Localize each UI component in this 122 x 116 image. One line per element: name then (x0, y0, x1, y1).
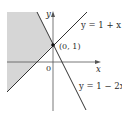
origin-label: 0 (46, 65, 51, 73)
diagram-canvas (0, 0, 122, 116)
y-axis-label: y (46, 10, 51, 19)
shaded-region (7, 12, 53, 92)
line1-equation-label: y = 1 + x (81, 21, 121, 30)
line-y-equals-1-minus-2x (37, 12, 86, 110)
line2-equation-label: y = 1 − 2x (79, 82, 122, 91)
y-axis-arrow-icon (51, 11, 55, 17)
intersection-point (51, 43, 55, 47)
point-label: (0, 1) (59, 43, 81, 51)
inequality-region-diagram: y x 0 (0, 1) y = 1 + x y = 1 − 2x (0, 0, 122, 116)
x-axis-label: x (96, 65, 101, 74)
